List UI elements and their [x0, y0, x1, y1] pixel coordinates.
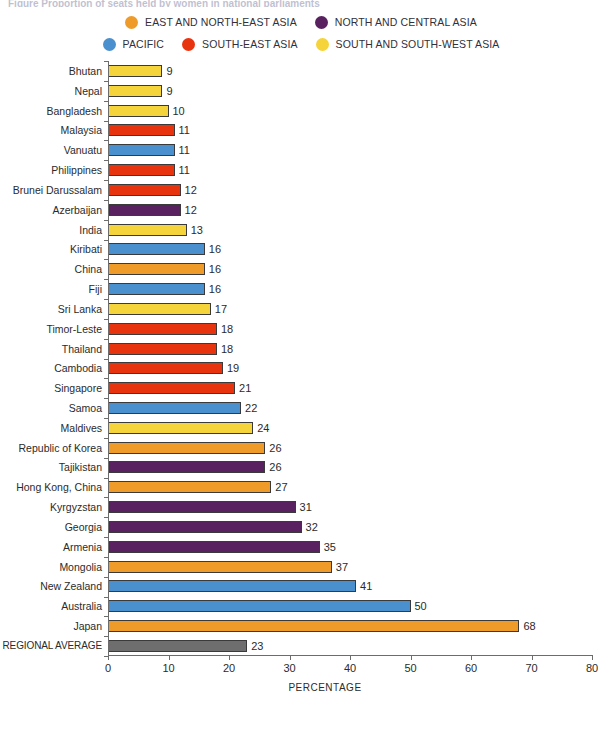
y-axis-tick — [104, 577, 108, 578]
bar-track: 13 — [108, 220, 602, 240]
bar-track: 18 — [108, 319, 602, 339]
bar-row: Nepal9 — [0, 81, 602, 101]
legend-item-label: SOUTH AND SOUTH-WEST ASIA — [336, 38, 500, 50]
y-axis-tick — [104, 299, 108, 300]
bar-category-label: China — [0, 263, 108, 275]
bar-row: New Zealand41 — [0, 577, 602, 597]
bar[interactable] — [108, 541, 320, 553]
bar[interactable] — [108, 600, 411, 612]
bar-category-label: Kyrgyzstan — [0, 501, 108, 513]
bar-row: Thailand18 — [0, 339, 602, 359]
bar-value-label: 13 — [191, 224, 203, 236]
bar[interactable] — [108, 164, 175, 176]
x-axis-tick-label: 20 — [223, 662, 235, 674]
bar[interactable] — [108, 124, 175, 136]
bar[interactable] — [108, 204, 181, 216]
bar-value-label: 11 — [179, 124, 190, 136]
bar[interactable] — [108, 105, 169, 117]
bar[interactable] — [108, 303, 211, 315]
bar-track: 22 — [108, 398, 602, 418]
legend-swatch-icon — [125, 16, 138, 29]
y-axis-tick — [104, 537, 108, 538]
y-axis-tick — [104, 259, 108, 260]
bar[interactable] — [108, 561, 332, 573]
bar[interactable] — [108, 442, 265, 454]
bar[interactable] — [108, 382, 235, 394]
bar-row: Singapore21 — [0, 378, 602, 398]
bar[interactable] — [108, 640, 247, 652]
bar[interactable] — [108, 144, 175, 156]
x-axis-tick — [290, 655, 291, 660]
y-axis-tick — [104, 240, 108, 241]
bar[interactable] — [108, 224, 187, 236]
x-axis-tick-label: 10 — [162, 662, 174, 674]
bar-category-label: REGIONAL AVERAGE — [0, 640, 108, 651]
legend-item-label: SOUTH-EAST ASIA — [202, 38, 298, 50]
y-axis-tick — [104, 140, 108, 141]
legend-swatch-icon — [315, 16, 328, 29]
bar-category-label: Hong Kong, China — [0, 481, 108, 493]
y-axis-tick — [104, 478, 108, 479]
bar-row: Sri Lanka17 — [0, 299, 602, 319]
bar[interactable] — [108, 521, 302, 533]
x-axis-tick-label: 50 — [404, 662, 416, 674]
bar-track: 12 — [108, 200, 602, 220]
bar-track: 50 — [108, 596, 602, 616]
bar[interactable] — [108, 461, 265, 473]
bar[interactable] — [108, 263, 205, 275]
y-axis-tick — [104, 339, 108, 340]
legend-swatch-icon — [103, 38, 116, 51]
x-axis-tick — [350, 655, 351, 660]
bar-category-label: Mongolia — [0, 561, 108, 573]
bar-track: 37 — [108, 557, 602, 577]
bar-value-label: 24 — [257, 422, 269, 434]
bar[interactable] — [108, 402, 241, 414]
bar-category-label: Malaysia — [0, 124, 108, 136]
bar[interactable] — [108, 481, 271, 493]
bar-category-label: Fiji — [0, 283, 108, 295]
bar-track: 24 — [108, 418, 602, 438]
bar[interactable] — [108, 65, 162, 77]
bar-value-label: 12 — [185, 184, 197, 196]
y-axis-tick — [104, 61, 108, 62]
bar[interactable] — [108, 323, 217, 335]
legend-item-label: EAST AND NORTH-EAST ASIA — [145, 16, 297, 28]
y-axis-tick — [104, 398, 108, 399]
bar-row: Georgia32 — [0, 517, 602, 537]
x-axis-tick — [592, 655, 593, 660]
bar[interactable] — [108, 184, 181, 196]
bar-row: Japan68 — [0, 616, 602, 636]
bar[interactable] — [108, 243, 205, 255]
bar-value-label: 21 — [239, 382, 251, 394]
bar[interactable] — [108, 343, 217, 355]
y-axis-tick — [104, 616, 108, 617]
legend-item-north-and-central-asia[interactable]: NORTH AND CENTRAL ASIA — [315, 16, 477, 29]
bar[interactable] — [108, 501, 296, 513]
bar-row: Malaysia11 — [0, 120, 602, 140]
bar-category-label: Kiribati — [0, 243, 108, 255]
legend-item-pacific[interactable]: PACIFIC — [103, 38, 164, 51]
bar[interactable] — [108, 283, 205, 295]
bar-row: Maldives24 — [0, 418, 602, 438]
bar-track: 35 — [108, 537, 602, 557]
y-axis-tick — [104, 497, 108, 498]
bar-row: Fiji16 — [0, 279, 602, 299]
bar-track: 19 — [108, 358, 602, 378]
bar-value-label: 35 — [324, 541, 336, 553]
bar-value-label: 41 — [360, 580, 372, 592]
bar-category-label: Singapore — [0, 382, 108, 394]
bar-category-label: Australia — [0, 600, 108, 612]
bar-category-label: Tajikistan — [0, 461, 108, 473]
legend-item-south-and-south-west-asia[interactable]: SOUTH AND SOUTH-WEST ASIA — [316, 38, 500, 51]
bar[interactable] — [108, 580, 356, 592]
bar[interactable] — [108, 620, 519, 632]
bar[interactable] — [108, 422, 253, 434]
bar[interactable] — [108, 85, 162, 97]
legend-item-south-east-asia[interactable]: SOUTH-EAST ASIA — [182, 38, 298, 51]
legend-item-east-and-north-east-asia[interactable]: EAST AND NORTH-EAST ASIA — [125, 16, 297, 29]
x-axis-tick-label: 40 — [344, 662, 356, 674]
bar[interactable] — [108, 362, 223, 374]
legend-item-label: PACIFIC — [123, 38, 164, 50]
bar-track: 26 — [108, 458, 602, 478]
bar-value-label: 26 — [269, 442, 281, 454]
